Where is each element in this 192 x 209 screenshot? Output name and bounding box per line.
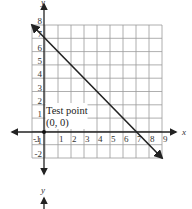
y-tick-label: -1	[35, 136, 43, 146]
y-tick-label: 1	[38, 109, 43, 119]
y-tick-labels: 87654321-1-2	[35, 16, 43, 159]
x-tick-label: 4	[98, 134, 103, 144]
y-tick-label: 6	[38, 43, 43, 53]
y-tick-label: 8	[38, 16, 43, 26]
graph: -1123456789 87654321-1-2 x y Test point …	[0, 0, 192, 209]
test-point	[42, 130, 46, 134]
secondary-y-label: y	[40, 185, 45, 195]
x-tick-label: 3	[85, 134, 90, 144]
x-tick-label: 5	[111, 134, 116, 144]
test-point-coords: (0, 0)	[46, 117, 69, 129]
x-tick-label: 8	[150, 134, 155, 144]
test-point-label: Test point	[46, 105, 88, 116]
y-tick-label: -2	[35, 149, 43, 159]
y-axis-label: y	[40, 0, 45, 7]
x-axis-label: x	[181, 127, 186, 137]
y-tick-label: 5	[38, 56, 43, 66]
x-tick-label: 1	[59, 134, 64, 144]
y-tick-label: 3	[38, 83, 43, 93]
x-tick-label: 2	[72, 134, 77, 144]
x-tick-label: 9	[163, 134, 168, 144]
x-tick-label: 6	[124, 134, 129, 144]
y-tick-label: 4	[38, 69, 43, 79]
y-tick-label: 2	[38, 96, 43, 106]
